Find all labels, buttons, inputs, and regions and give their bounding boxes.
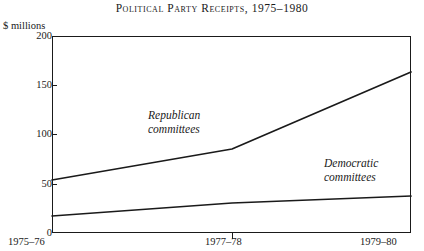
series-label-democratic-line2: committees — [324, 171, 376, 183]
y-tick-mark-100 — [52, 134, 57, 135]
y-tick-label-50: 50 — [8, 179, 52, 189]
series-label-republican-line2: committees — [148, 123, 200, 135]
y-axis: 200 150 100 50 0 — [0, 0, 52, 251]
y-tick-label-100: 100 — [8, 129, 52, 139]
series-label-democratic: Democratic committees — [324, 157, 378, 184]
y-tick-label-200: 200 — [8, 31, 52, 41]
chart-container: Political Party Receipts, 1975–1980 $ mi… — [0, 0, 424, 251]
x-tick-label-1977-78: 1977–78 — [205, 236, 242, 248]
x-tick-label-1975-76: 1975–76 — [8, 236, 45, 248]
series-label-republican-line1: Republican — [148, 109, 200, 121]
y-tick-mark-150 — [52, 85, 57, 86]
series-label-republican: Republican committees — [148, 109, 200, 136]
y-tick-mark-50 — [52, 184, 57, 185]
series-label-democratic-line1: Democratic — [324, 157, 378, 169]
plot-area — [52, 36, 411, 233]
y-tick-label-150: 150 — [8, 80, 52, 90]
x-tick-label-1979-80: 1979–80 — [360, 236, 397, 248]
chart-title: Political Party Receipts, 1975–1980 — [0, 2, 424, 14]
